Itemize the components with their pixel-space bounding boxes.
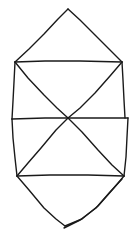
figure-canvas — [0, 0, 138, 235]
top-peak-left-edge — [15, 9, 68, 62]
upper-band-diagonal-right-to-center — [68, 62, 122, 118]
upper-band-left-edge — [12, 62, 15, 119]
bottom-peak-right-edge-inner — [64, 179, 122, 228]
upper-band-right-edge — [122, 62, 125, 118]
lower-band-diagonal-center-to-right — [68, 118, 124, 176]
bottom-peak-left-edge — [17, 176, 65, 226]
lower-band-left-edge — [12, 119, 17, 176]
stroke-group — [12, 9, 128, 228]
upper-band-diagonal-left-to-center — [15, 62, 68, 118]
lower-band-bottom-edge — [17, 175, 124, 176]
lower-band-diagonal-center-to-left — [17, 118, 68, 176]
hand-drawn-figure — [0, 0, 138, 235]
upper-band-top-edge — [15, 61, 122, 62]
middle-band-top-edge — [12, 118, 128, 119]
lower-band-right-edge — [124, 118, 128, 176]
bottom-peak-right-edge-outer — [65, 176, 124, 226]
top-peak-right-edge — [68, 9, 122, 62]
